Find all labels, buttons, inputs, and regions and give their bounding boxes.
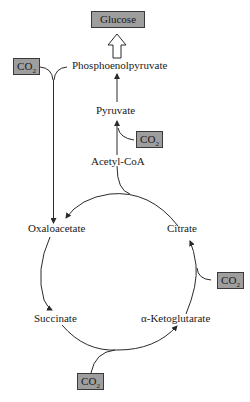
node-acetyl-coa: Acetyl-CoA bbox=[91, 155, 145, 167]
co2-box-citrate: CO2 bbox=[217, 272, 244, 289]
co2-join-curve-pep-left bbox=[40, 67, 53, 80]
co2-join-curve-citrate bbox=[197, 268, 211, 280]
co2-join-curve-succinate bbox=[91, 350, 115, 373]
co2-box-succinate: CO2 bbox=[77, 373, 104, 390]
pep-join-curve bbox=[54, 67, 67, 80]
co2-box-pyruvate: CO2 bbox=[136, 131, 163, 148]
glucose-label: Glucose bbox=[100, 13, 136, 25]
node-pyruvate: Pyruvate bbox=[96, 104, 135, 116]
arc-succinate-to-alphakg bbox=[62, 325, 177, 350]
node-alpha-ketoglutarate: α-Ketoglutarate bbox=[141, 312, 210, 324]
arc-oxaloacetate-to-succinate bbox=[41, 237, 52, 310]
node-phosphoenolpyruvate: Phosphoenolpyruvate bbox=[72, 59, 167, 71]
node-citrate: Citrate bbox=[167, 222, 197, 234]
co2-join-curve-pyruvate bbox=[118, 128, 134, 140]
glucose-box: Glucose bbox=[91, 11, 145, 28]
acetylcoa-join-curve bbox=[117, 166, 130, 194]
node-oxaloacetate: Oxaloacetate bbox=[28, 222, 85, 234]
arc-alphakg-to-citrate bbox=[186, 241, 196, 314]
hollow-arrow-pep-to-glucose bbox=[108, 34, 126, 58]
node-succinate: Succinate bbox=[34, 312, 77, 324]
co2-box-pep: CO2 bbox=[13, 58, 40, 75]
